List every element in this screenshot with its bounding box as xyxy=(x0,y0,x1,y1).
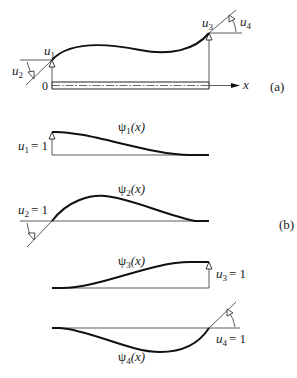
x-axis-label: x xyxy=(242,77,249,92)
u1-arrow-icon xyxy=(49,60,55,67)
psi4-label: ψ4(x) xyxy=(118,349,145,366)
psi1-label: ψ1(x) xyxy=(118,119,145,136)
u4-arrow-icon xyxy=(229,15,235,22)
psi2-arrow-icon xyxy=(28,233,35,240)
u2-arrow-icon xyxy=(28,71,34,79)
shape-function-psi3: ψ3(x) u3= 1 xyxy=(52,253,246,288)
psi3-arrow-icon xyxy=(206,262,212,269)
psi4-arrow-icon xyxy=(227,309,233,316)
u4-label: u4 xyxy=(240,14,252,31)
deflected-shape-curve xyxy=(52,33,209,60)
u1-label: u1 xyxy=(44,43,55,60)
panel-a-label: (a) xyxy=(270,79,284,94)
shape-function-psi2: ψ2(x) u2= 1 xyxy=(18,181,209,247)
u1-equals-1-label: u1= 1 xyxy=(18,138,48,155)
u4-rotation xyxy=(209,10,242,33)
psi3-label: ψ3(x) xyxy=(118,253,145,270)
shape-function-psi4: ψ4(x) u4= 1 xyxy=(52,302,246,366)
panel-b: (b) ψ1(x) u1= 1 ψ2(x) u2= 1 ψ3(x) xyxy=(18,119,294,366)
panel-a: x 0 u1 u2 u3 u4 (a) xyxy=(12,10,284,94)
psi1-arrow-icon xyxy=(49,132,55,139)
u2-label: u2 xyxy=(12,63,23,80)
u4-equals-1-label: u4= 1 xyxy=(216,331,246,348)
u3-label: u3 xyxy=(202,15,214,32)
beam-element xyxy=(52,82,209,89)
u2-equals-1-label: u2= 1 xyxy=(18,202,48,219)
panel-b-label: (b) xyxy=(279,217,294,232)
x-axis-arrow xyxy=(209,83,240,88)
shape-function-psi1: ψ1(x) u1= 1 xyxy=(18,119,209,155)
origin-label: 0 xyxy=(42,79,48,93)
psi2-label: ψ2(x) xyxy=(118,181,145,198)
beam-shape-functions-diagram: x 0 u1 u2 u3 u4 (a) (b) xyxy=(0,0,297,378)
u3-equals-1-label: u3= 1 xyxy=(216,266,246,283)
